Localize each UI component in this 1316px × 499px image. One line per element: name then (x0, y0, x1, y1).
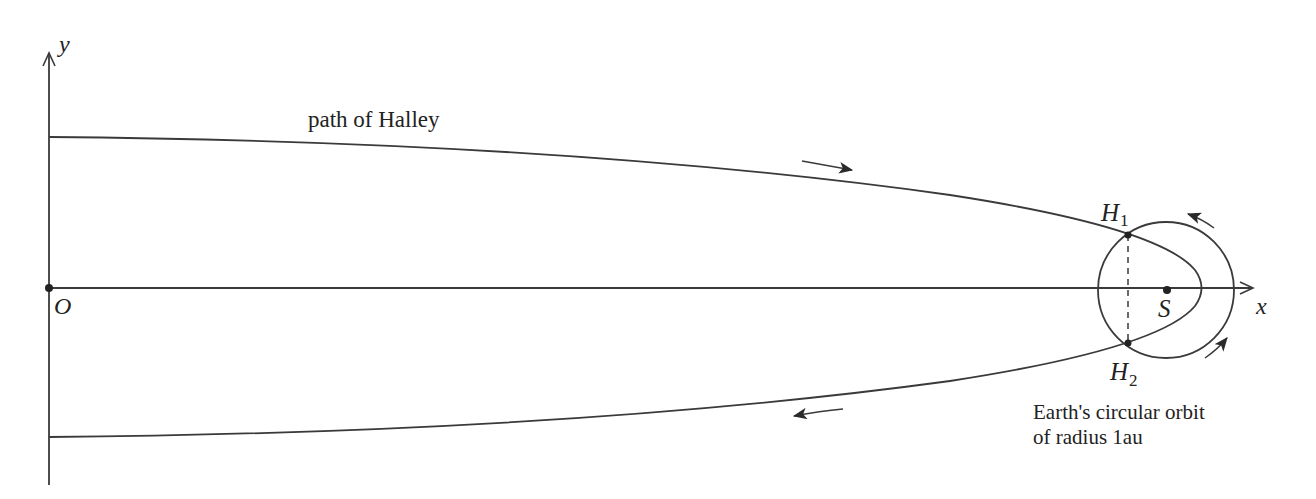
sun-label: S (1158, 295, 1171, 322)
h1-subscript: 1 (1120, 211, 1129, 230)
earth-orbit-label-line2: of radius 1au (1033, 425, 1143, 449)
h2-point (1125, 340, 1132, 347)
h1-label: H (1100, 199, 1121, 226)
path-direction-arrow-bottom-icon (794, 409, 843, 416)
h2-subscript: 2 (1129, 371, 1138, 390)
halley-path-label: path of Halley (308, 107, 440, 132)
y-axis-label: y (57, 31, 70, 57)
h1-point (1125, 232, 1132, 239)
h2-label: H (1109, 358, 1130, 385)
orbit-direction-arrow-bottom-icon (1205, 338, 1227, 358)
halley-orbit-diagram: y x O path of Halley H 1 H 2 S Earth's c… (0, 0, 1316, 499)
x-axis-label: x (1255, 293, 1267, 319)
halley-path-curve (49, 137, 1202, 437)
earth-orbit-label-line1: Earth's circular orbit (1033, 400, 1205, 424)
sun-point (1163, 286, 1171, 294)
origin-label: O (54, 293, 71, 319)
origin-point (45, 284, 53, 292)
path-direction-arrow-top-icon (802, 161, 852, 170)
orbit-direction-arrow-top-icon (1188, 214, 1214, 228)
